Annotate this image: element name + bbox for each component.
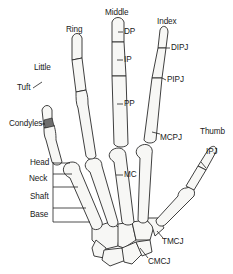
label-head: Head [30,159,49,167]
label-dipj: DIPJ [171,44,188,52]
label-mcpj: MCPJ [160,134,182,142]
label-pipj: PIPJ [167,76,184,84]
label-index: Index [157,18,177,26]
label-little: Little [34,64,51,72]
label-dp: DP [124,28,135,36]
label-neck: Neck [29,175,47,183]
middle-finger-bones [112,18,128,148]
label-thumb: Thumb [200,128,225,136]
ring-finger-bones [72,34,96,160]
label-tuft: Tuft [17,84,30,92]
label-ipj: IPJ [206,148,218,156]
label-pp: PP [124,100,135,108]
label-base: Base [30,211,48,219]
label-ip: IP [124,56,132,64]
label-middle: Middle [105,9,129,17]
label-condyles: Condyles [9,120,42,128]
metacarpals [63,144,194,229]
label-cmcj: CMCJ [148,258,170,266]
label-tmcj: TMCJ [162,238,183,246]
little-finger-bones [42,106,62,166]
label-mc: MC [124,171,137,179]
hand-skeleton-diagram [0,0,233,274]
label-shaft: Shaft [30,193,49,201]
label-ring: Ring [66,26,82,34]
index-finger-bones [144,26,168,143]
